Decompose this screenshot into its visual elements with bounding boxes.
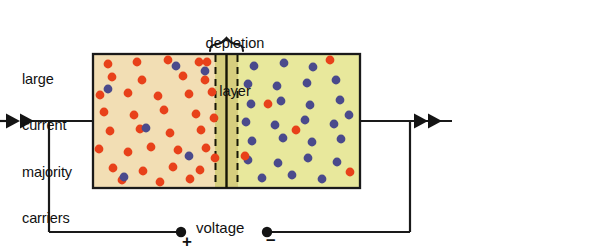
polarity-plus-label: + bbox=[182, 236, 192, 248]
carrier-dot bbox=[109, 164, 118, 173]
carrier-dot bbox=[124, 148, 133, 157]
carrier-dot bbox=[120, 173, 129, 182]
carrier-dot bbox=[169, 163, 178, 172]
carrier-dot bbox=[166, 129, 175, 138]
left-label-line-1: large bbox=[22, 72, 94, 88]
carrier-dot bbox=[104, 85, 113, 94]
carrier-dot bbox=[142, 124, 151, 133]
carrier-dot bbox=[303, 79, 312, 88]
carrier-dot bbox=[104, 60, 113, 69]
left-label-line-4: carriers bbox=[22, 211, 94, 227]
carrier-dot bbox=[174, 146, 183, 155]
carrier-dot bbox=[346, 168, 355, 177]
carrier-dot bbox=[186, 175, 195, 184]
carrier-dot bbox=[130, 111, 139, 120]
carrier-dot bbox=[333, 158, 342, 167]
carrier-dot bbox=[337, 135, 346, 144]
polarity-minus-label: – bbox=[266, 234, 275, 246]
carrier-dot bbox=[326, 56, 335, 65]
carrier-dot bbox=[124, 89, 133, 98]
current-arrow-right bbox=[414, 114, 442, 129]
carrier-dot bbox=[95, 145, 104, 154]
carrier-dot bbox=[108, 73, 117, 82]
depletion-layer-label: depletion layer bbox=[186, 3, 284, 131]
carrier-dot bbox=[196, 166, 205, 175]
carrier-dot bbox=[332, 76, 341, 85]
carrier-dot bbox=[241, 152, 250, 161]
carrier-dot bbox=[345, 111, 354, 120]
figure-caption: junction diode n-p semiconductor junctio… bbox=[440, 220, 599, 250]
carrier-dot bbox=[133, 58, 142, 67]
carrier-dot bbox=[164, 56, 173, 65]
carrier-dot bbox=[288, 171, 297, 180]
carrier-dot bbox=[248, 137, 257, 146]
carrier-dot bbox=[202, 144, 211, 153]
carrier-dot bbox=[258, 174, 267, 183]
carrier-dot bbox=[100, 108, 109, 117]
carrier-dot bbox=[106, 127, 115, 136]
carrier-dot bbox=[147, 143, 156, 152]
carrier-dot bbox=[306, 101, 315, 110]
carrier-dot bbox=[274, 159, 283, 168]
carrier-dot bbox=[292, 126, 301, 135]
carrier-dot bbox=[309, 63, 318, 72]
carrier-dot bbox=[156, 178, 165, 187]
carrier-dot bbox=[301, 116, 310, 125]
carrier-dot bbox=[308, 138, 317, 147]
carrier-dot bbox=[154, 92, 163, 101]
carrier-dot bbox=[211, 154, 220, 163]
left-label-line-3: majority bbox=[22, 165, 94, 181]
carrier-dot bbox=[160, 106, 169, 115]
left-label-group: large current majority carriers bbox=[22, 41, 94, 250]
carrier-dot bbox=[330, 120, 339, 129]
carrier-dot bbox=[172, 62, 181, 71]
carrier-dot bbox=[138, 76, 147, 85]
left-label-line-2: current bbox=[22, 118, 94, 134]
depletion-label-line-2: layer bbox=[186, 83, 284, 99]
depletion-label-line-1: depletion bbox=[186, 35, 284, 51]
diagram-stage: large current majority carriers depletio… bbox=[0, 0, 599, 250]
carrier-dot bbox=[96, 91, 105, 100]
carrier-dot bbox=[336, 96, 345, 105]
carrier-dot bbox=[318, 175, 327, 184]
carrier-dot bbox=[185, 152, 194, 161]
carrier-dot bbox=[304, 154, 313, 163]
voltage-label: voltage bbox=[196, 220, 244, 236]
carrier-dot bbox=[139, 167, 148, 176]
carrier-dot bbox=[279, 134, 288, 143]
